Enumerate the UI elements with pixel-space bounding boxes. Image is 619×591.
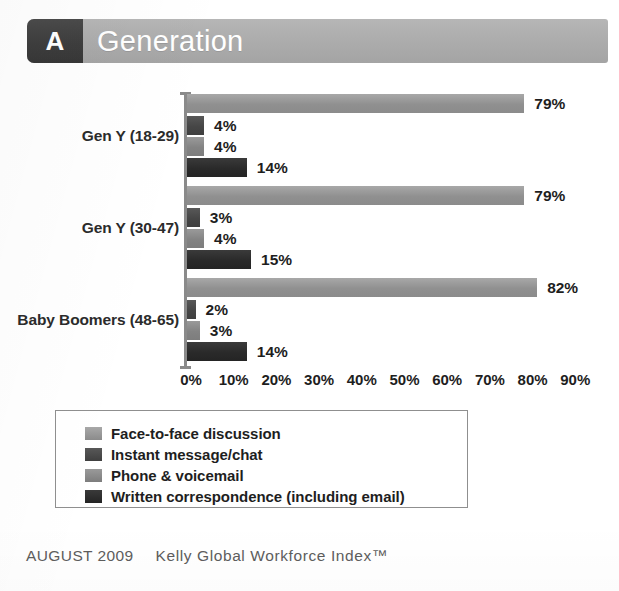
bar-row: 3%: [187, 208, 607, 227]
section-header-banner: A Generation: [27, 19, 608, 63]
bar-value-label: 14%: [257, 159, 288, 177]
bar-row: 15%: [187, 250, 607, 269]
x-axis-tick: 80%: [518, 371, 548, 388]
x-axis-tick: 20%: [261, 371, 291, 388]
bar-value-label: 79%: [534, 187, 565, 205]
x-axis-tick: 30%: [304, 371, 334, 388]
bar-row: 79%: [187, 186, 607, 205]
bar-value-label: 3%: [210, 209, 232, 227]
x-axis-tick: 90%: [560, 371, 590, 388]
bar-row: 14%: [187, 342, 607, 361]
legend-color-swatch: [85, 427, 102, 440]
bar-value-label: 4%: [214, 230, 236, 248]
group-category-label: Gen Y (18-29): [0, 92, 179, 180]
bar-segment: [187, 342, 247, 361]
x-axis-tick: 70%: [475, 371, 505, 388]
footer-date: AUGUST 2009: [26, 547, 134, 565]
group-category-label: Baby Boomers (48-65): [0, 276, 179, 364]
bar-value-label: 2%: [206, 301, 228, 319]
legend-color-swatch: [85, 448, 102, 461]
bar-row: 82%: [187, 278, 607, 297]
bar-segment: [187, 137, 204, 156]
bar-segment: [187, 321, 200, 340]
bar-segment: [187, 94, 524, 113]
legend-item: Face-to-face discussion: [85, 424, 405, 443]
bar-row: 14%: [187, 158, 607, 177]
bar-group: Baby Boomers (48-65)82%2%3%14%: [0, 276, 619, 364]
bar-segment: [187, 208, 200, 227]
legend-label: Instant message/chat: [111, 446, 263, 463]
bar-value-label: 4%: [214, 117, 236, 135]
bar-row: 79%: [187, 94, 607, 113]
bar-segment: [187, 186, 524, 205]
chart-legend: Face-to-face discussionInstant message/c…: [55, 410, 468, 508]
legend-color-swatch: [85, 490, 102, 503]
legend-label: Phone & voicemail: [111, 467, 244, 484]
page-title: Generation: [97, 19, 244, 63]
legend-label: Face-to-face discussion: [111, 425, 281, 442]
bar-value-label: 3%: [210, 322, 232, 340]
bar-segment: [187, 116, 204, 135]
bar-value-label: 4%: [214, 138, 236, 156]
legend-color-swatch: [85, 469, 102, 482]
bar-row: 2%: [187, 300, 607, 319]
bar-value-label: 79%: [534, 95, 565, 113]
x-axis-tick-labels: 0%10%20%30%40%50%60%70%80%90%: [0, 371, 619, 393]
bar-row: 3%: [187, 321, 607, 340]
section-letter-badge: A: [27, 19, 83, 63]
x-axis-tick: 60%: [432, 371, 462, 388]
footer-brand: Kelly Global Workforce Index™: [156, 547, 388, 565]
bar-segment: [187, 278, 537, 297]
legend-label: Written correspondence (including email): [111, 488, 405, 505]
x-axis-tick: 0%: [180, 371, 202, 388]
y-axis-bottom-cap: [180, 366, 191, 369]
bar-segment: [187, 300, 196, 319]
bar-segment: [187, 250, 251, 269]
x-axis-tick: 50%: [389, 371, 419, 388]
bar-chart-plot-area: Gen Y (18-29)79%4%4%14%Gen Y (30-47)79%3…: [0, 88, 619, 388]
bar-value-label: 14%: [257, 343, 288, 361]
bar-segment: [187, 158, 247, 177]
group-category-label: Gen Y (30-47): [0, 184, 179, 272]
bar-row: 4%: [187, 137, 607, 156]
x-axis-tick: 10%: [219, 371, 249, 388]
bar-value-label: 15%: [261, 251, 292, 269]
bar-group: Gen Y (30-47)79%3%4%15%: [0, 184, 619, 272]
footer: AUGUST 2009 Kelly Global Workforce Index…: [26, 547, 388, 565]
legend-item: Instant message/chat: [85, 445, 405, 464]
bar-group: Gen Y (18-29)79%4%4%14%: [0, 92, 619, 180]
bar-row: 4%: [187, 229, 607, 248]
legend-item: Phone & voicemail: [85, 466, 405, 485]
bar-segment: [187, 229, 204, 248]
bar-row: 4%: [187, 116, 607, 135]
legend-item: Written correspondence (including email): [85, 487, 405, 506]
bar-value-label: 82%: [547, 279, 578, 297]
x-axis-tick: 40%: [347, 371, 377, 388]
